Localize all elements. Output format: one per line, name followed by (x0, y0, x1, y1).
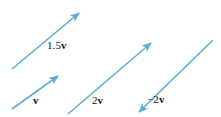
vector-label-2v: 2v (92, 95, 103, 106)
vector-label-negative-2v-symbol: v (159, 93, 165, 105)
vector-label-v-symbol: v (33, 94, 39, 106)
vector-label-negative-2v: −2v (147, 94, 165, 105)
vector-arrow-1-5v (12, 13, 79, 69)
vector-label-negative-2v-scalar: −2 (147, 93, 159, 105)
vector-label-1-5v-symbol: v (61, 39, 67, 51)
vector-label-1-5v-scalar: 1.5 (47, 39, 61, 51)
vector-arrow-2v (68, 43, 151, 114)
vector-label-v: v (33, 95, 39, 106)
vector-scalar-multiples-figure: 1.5v v 2v −2v (0, 0, 221, 117)
vector-label-2v-symbol: v (98, 94, 104, 106)
vector-label-1-5v: 1.5v (47, 40, 67, 51)
